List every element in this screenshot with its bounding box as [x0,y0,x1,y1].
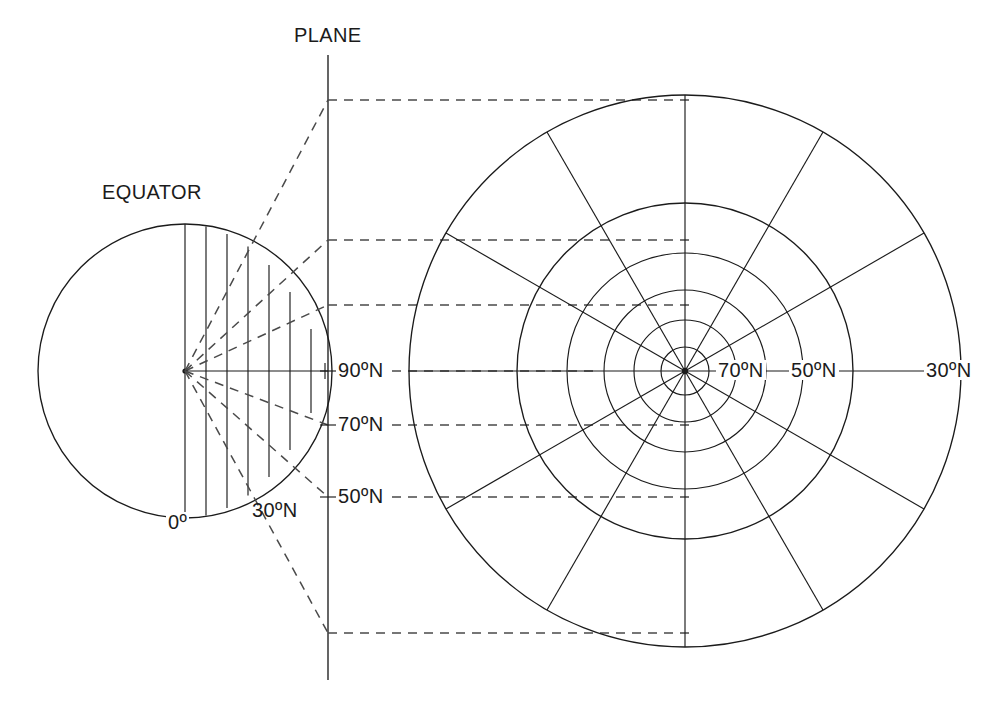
polar-30n-label: 30ºN [924,360,974,380]
polar-70n-label: 70ºN [716,360,766,380]
globe-zero-label: 0º [166,512,189,532]
polar-50n-label: 50ºN [789,360,839,380]
equator-label: EQUATOR [100,182,204,202]
plane-70n-label: 70ºN [336,414,386,434]
plane-label: PLANE [292,25,364,45]
polar-center-point [682,368,688,374]
plane-90n-label: 90ºN [336,360,386,380]
diagram-canvas [0,0,1006,711]
globe-30n-label: 30ºN [250,500,300,520]
plane-50n-label: 50ºN [336,486,386,506]
polar-plot-group [409,95,961,647]
projection-diagram: PLANE EQUATOR 0º 30ºN 90ºN 70ºN 50ºN 70º… [0,0,1006,711]
